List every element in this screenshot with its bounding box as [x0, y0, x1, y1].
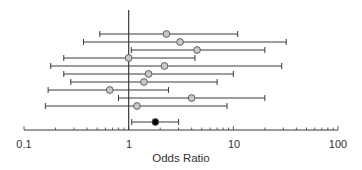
summary-estimate	[132, 119, 179, 126]
study-row-10	[45, 103, 227, 110]
study-row-5-point-marker	[161, 63, 168, 70]
study-row-9-point-marker	[188, 95, 195, 102]
summary-estimate-point-marker	[152, 119, 159, 126]
tick-label-100: 100	[329, 138, 347, 150]
study-row-7	[71, 79, 217, 86]
x-axis	[24, 126, 338, 130]
study-row-2-point-marker	[177, 39, 184, 46]
summary-row	[132, 119, 179, 126]
study-row-8-point-marker	[106, 87, 113, 94]
study-row-1-point-marker	[163, 31, 170, 38]
study-row-1	[100, 31, 238, 38]
study-row-5	[51, 63, 282, 70]
study-row-9	[119, 95, 265, 102]
study-row-3	[131, 47, 265, 54]
study-row-4	[64, 55, 195, 62]
tick-label-10: 10	[228, 138, 240, 150]
study-row-4-point-marker	[125, 55, 132, 62]
study-row-7-point-marker	[141, 79, 148, 86]
study-row-3-point-marker	[194, 47, 201, 54]
study-row-6	[64, 71, 234, 78]
study-row-8	[48, 87, 168, 94]
study-row-2	[83, 39, 286, 46]
study-row-10-point-marker	[134, 103, 141, 110]
study-row-6-point-marker	[145, 71, 152, 78]
forest-plot	[0, 0, 362, 170]
tick-label-0.1: 0.1	[16, 138, 31, 150]
x-axis-label: Odds Ratio	[152, 152, 210, 164]
study-rows	[45, 31, 286, 110]
tick-label-1: 1	[126, 138, 132, 150]
